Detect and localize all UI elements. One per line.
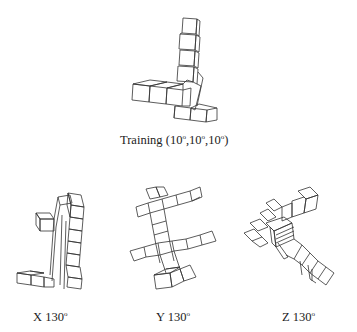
z-rotation-cube-figure bbox=[240, 183, 348, 291]
axis-label: X bbox=[33, 310, 42, 324]
z-rotation-caption: Z 130o bbox=[282, 310, 315, 325]
y-rotation-caption: Y 130o bbox=[156, 310, 190, 325]
angle-value: 130 bbox=[293, 310, 312, 324]
y-rotation-cube-figure bbox=[128, 183, 228, 295]
caption-text: ) bbox=[224, 133, 228, 147]
training-caption: Training (10o,10o,10o) bbox=[120, 133, 228, 148]
x-rotation-cube-figure bbox=[10, 185, 90, 295]
degree-symbol: o bbox=[186, 310, 190, 318]
angle-value: 130 bbox=[45, 310, 64, 324]
caption-text: Training (10 bbox=[120, 133, 182, 147]
degree-symbol: o bbox=[64, 310, 68, 318]
axis-label: Y bbox=[156, 310, 165, 324]
axis-label: Z bbox=[282, 310, 290, 324]
training-cube-figure bbox=[125, 10, 235, 128]
degree-symbol: o bbox=[312, 310, 316, 318]
x-rotation-caption: X 130o bbox=[33, 310, 67, 325]
angle-value: 130 bbox=[168, 310, 187, 324]
caption-text: ,10 bbox=[205, 133, 221, 147]
caption-text: ,10 bbox=[186, 133, 202, 147]
